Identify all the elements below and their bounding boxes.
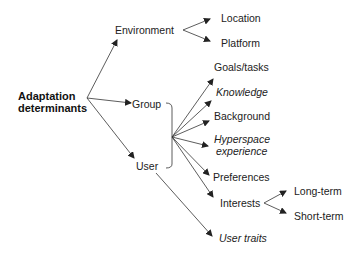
node-location: Location [221, 12, 261, 24]
node-platform: Platform [221, 37, 260, 49]
adaptation-determinants-diagram: Adaptation determinants Environment Grou… [0, 0, 363, 253]
node-hyperspace-line2: experience [216, 145, 267, 157]
node-user: User [136, 160, 158, 172]
node-group: Group [132, 98, 161, 110]
node-hyperspace-line1: Hyperspace [214, 133, 270, 145]
node-user-traits: User traits [219, 232, 267, 244]
node-short-term: Short-term [294, 210, 344, 222]
root-label-line1: Adaptation [18, 90, 75, 102]
node-knowledge: Knowledge [216, 86, 268, 98]
node-long-term: Long-term [294, 185, 342, 197]
node-preferences: Preferences [213, 171, 270, 183]
node-background: Background [214, 110, 270, 122]
node-goals-tasks: Goals/tasks [214, 61, 269, 73]
node-environment: Environment [115, 24, 174, 36]
node-interests: Interests [220, 197, 260, 209]
root-label-line2: determinants [18, 102, 87, 114]
